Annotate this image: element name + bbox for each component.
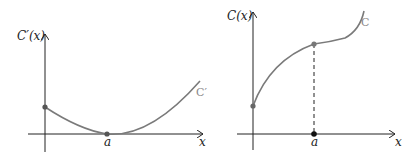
right-y-axis-label: C(x) xyxy=(227,9,253,23)
derivative-curve xyxy=(45,81,200,134)
diagram-canvas: C′(x) x a C′ C(x) x a C xyxy=(0,0,420,160)
right-curve-label: C xyxy=(361,16,369,29)
left-x-axis-label: x xyxy=(199,135,206,149)
left-a-tick-label: a xyxy=(104,135,111,149)
left-curve-label: C′ xyxy=(196,86,207,99)
right-a-tick-label: a xyxy=(311,135,318,149)
cost-curve xyxy=(253,11,364,106)
right-y-intercept-point xyxy=(250,103,255,108)
right-x-axis-label: x xyxy=(395,135,402,149)
left-graph: C′(x) x a C′ xyxy=(17,29,207,152)
left-y-axis-label: C′(x) xyxy=(17,29,45,43)
right-graph: C(x) x a C xyxy=(227,9,402,150)
right-inflection-point xyxy=(311,41,316,46)
left-y-intercept-point xyxy=(42,104,47,109)
